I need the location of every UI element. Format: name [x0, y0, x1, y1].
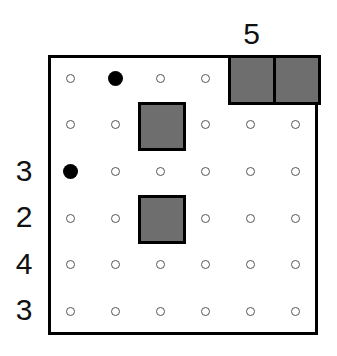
- empty-dot-icon: [246, 120, 255, 129]
- black-stone-icon: [108, 71, 123, 86]
- empty-dot-icon: [66, 214, 75, 223]
- row-clue: 3: [9, 295, 39, 325]
- grid-cell[interactable]: [228, 288, 273, 335]
- shaded-block[interactable]: [273, 55, 321, 105]
- empty-dot-icon: [246, 214, 255, 223]
- column-clue: 5: [237, 19, 267, 49]
- grid-cell[interactable]: [183, 288, 228, 335]
- grid-cell[interactable]: [273, 288, 318, 335]
- empty-dot-icon: [111, 214, 120, 223]
- grid-cell[interactable]: [273, 148, 318, 195]
- empty-dot-icon: [66, 74, 75, 83]
- empty-dot-icon: [111, 120, 120, 129]
- empty-dot-icon: [156, 307, 165, 316]
- puzzle-board: [48, 55, 318, 335]
- grid-cell[interactable]: [93, 195, 138, 242]
- empty-dot-icon: [111, 167, 120, 176]
- empty-dot-icon: [201, 120, 210, 129]
- empty-dot-icon: [291, 167, 300, 176]
- empty-dot-icon: [111, 260, 120, 269]
- grid-cell[interactable]: [48, 288, 93, 335]
- grid-cell[interactable]: [48, 241, 93, 288]
- grid-cell[interactable]: [183, 102, 228, 149]
- empty-dot-icon: [201, 307, 210, 316]
- empty-dot-icon: [156, 167, 165, 176]
- grid-cell[interactable]: [93, 55, 138, 102]
- shaded-block[interactable]: [138, 195, 186, 245]
- grid-cell[interactable]: [228, 148, 273, 195]
- empty-dot-icon: [201, 167, 210, 176]
- grid-cell[interactable]: [228, 195, 273, 242]
- empty-dot-icon: [66, 307, 75, 316]
- grid-cell[interactable]: [138, 148, 183, 195]
- shaded-block[interactable]: [228, 55, 276, 105]
- empty-dot-icon: [156, 260, 165, 269]
- empty-dot-icon: [66, 120, 75, 129]
- empty-dot-icon: [246, 260, 255, 269]
- empty-dot-icon: [111, 307, 120, 316]
- grid-cell[interactable]: [183, 55, 228, 102]
- empty-dot-icon: [291, 307, 300, 316]
- grid-cell[interactable]: [138, 241, 183, 288]
- grid-cell[interactable]: [183, 241, 228, 288]
- grid-cell[interactable]: [273, 195, 318, 242]
- empty-dot-icon: [201, 214, 210, 223]
- grid-cell[interactable]: [93, 102, 138, 149]
- grid-cell[interactable]: [93, 288, 138, 335]
- row-clue: 3: [9, 156, 39, 186]
- grid-cell[interactable]: [93, 148, 138, 195]
- grid-cell[interactable]: [228, 102, 273, 149]
- empty-dot-icon: [156, 74, 165, 83]
- grid-cell[interactable]: [273, 241, 318, 288]
- grid-cell[interactable]: [183, 148, 228, 195]
- empty-dot-icon: [201, 74, 210, 83]
- empty-dot-icon: [246, 307, 255, 316]
- grid-cell[interactable]: [48, 102, 93, 149]
- grid-cell[interactable]: [48, 195, 93, 242]
- empty-dot-icon: [291, 120, 300, 129]
- grid-cell[interactable]: [48, 148, 93, 195]
- shaded-block[interactable]: [138, 102, 186, 152]
- row-clue: 4: [9, 249, 39, 279]
- empty-dot-icon: [201, 260, 210, 269]
- grid-cell[interactable]: [138, 55, 183, 102]
- grid-cell[interactable]: [93, 241, 138, 288]
- grid-cell[interactable]: [228, 241, 273, 288]
- grid-cell[interactable]: [138, 288, 183, 335]
- grid-cell[interactable]: [48, 55, 93, 102]
- grid-cell[interactable]: [183, 195, 228, 242]
- empty-dot-icon: [291, 260, 300, 269]
- row-clue: 2: [9, 202, 39, 232]
- empty-dot-icon: [291, 214, 300, 223]
- grid-cell[interactable]: [273, 102, 318, 149]
- empty-dot-icon: [246, 167, 255, 176]
- empty-dot-icon: [66, 260, 75, 269]
- black-stone-icon: [63, 164, 78, 179]
